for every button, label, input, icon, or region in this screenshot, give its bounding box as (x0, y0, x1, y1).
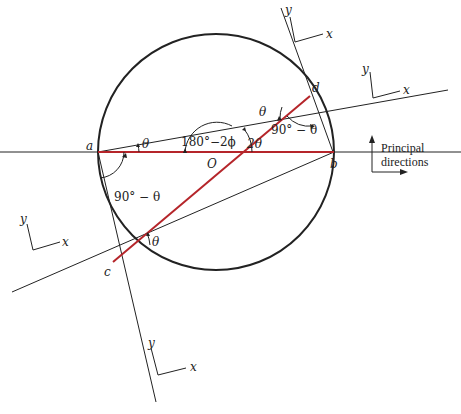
angle-90-minus-theta-left: 90° − θ (114, 190, 160, 204)
axes-left: y x (19, 212, 69, 250)
axis-left-x: x (62, 235, 69, 249)
axis-bottom-x: x (190, 360, 197, 374)
diameter-cd (113, 96, 310, 262)
point-O-label: O (207, 157, 217, 171)
principal-directions-legend: Principal directions (369, 135, 429, 175)
angle-theta-d: θ (259, 105, 267, 119)
axis-right-x: x (403, 83, 410, 97)
axis-right-y: y (361, 62, 369, 76)
point-c-label: c (104, 265, 111, 279)
angle-theta-c: θ (152, 235, 160, 249)
legend-line2: directions (381, 155, 429, 169)
axis-top-x: x (326, 27, 333, 41)
axes-bottom: y x (147, 336, 197, 375)
angle-180-minus-2phi: 180°−2ϕ (181, 135, 236, 149)
axis-top-y: y (284, 3, 292, 17)
mohr-circle-diagram: a b c d O θ 90° − θ 180°−2ϕ 2θ θ 90° − θ… (0, 0, 461, 414)
lower-slanted-line (12, 152, 334, 292)
point-a-label: a (86, 139, 93, 153)
angle-theta-a: θ (142, 137, 150, 151)
arrow-90-theta-left (122, 153, 127, 158)
legend-line1: Principal (381, 141, 425, 155)
axis-bottom-y: y (147, 336, 155, 350)
axes-right: y x (361, 62, 410, 98)
point-b-label: b (330, 157, 338, 171)
axis-left-y: y (19, 212, 27, 226)
arrow-2theta (242, 127, 246, 131)
point-d-label: d (312, 81, 320, 95)
angle-2theta: 2θ (246, 137, 263, 151)
arc-theta-d (280, 107, 282, 118)
